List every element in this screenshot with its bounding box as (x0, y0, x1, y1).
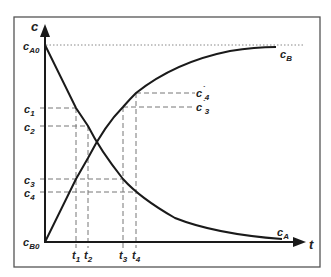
curve-cb (45, 47, 276, 242)
label-c2: c2 (24, 121, 35, 136)
label-c4: c4 (24, 187, 35, 202)
x-axis-label: t (309, 237, 314, 252)
label-ca0: cA0 (23, 40, 40, 55)
frame-border (14, 17, 320, 267)
label-t1: t1 (72, 249, 81, 264)
label-cb: cB (280, 48, 292, 63)
label-t2: t2 (84, 249, 93, 264)
label-cb0: cB0 (23, 236, 40, 251)
y-axis-label: c (31, 19, 39, 34)
label-c1: c1 (24, 103, 35, 118)
x-axis-arrow-icon (293, 237, 306, 247)
y-axis-arrow-icon (40, 24, 50, 37)
concentration-time-diagram: c t cA0 c1 c2 c3 c4 cB0 c`4 c`3 cB cA t1… (0, 0, 331, 277)
label-t4: t4 (132, 249, 141, 264)
label-t3: t3 (119, 249, 128, 264)
